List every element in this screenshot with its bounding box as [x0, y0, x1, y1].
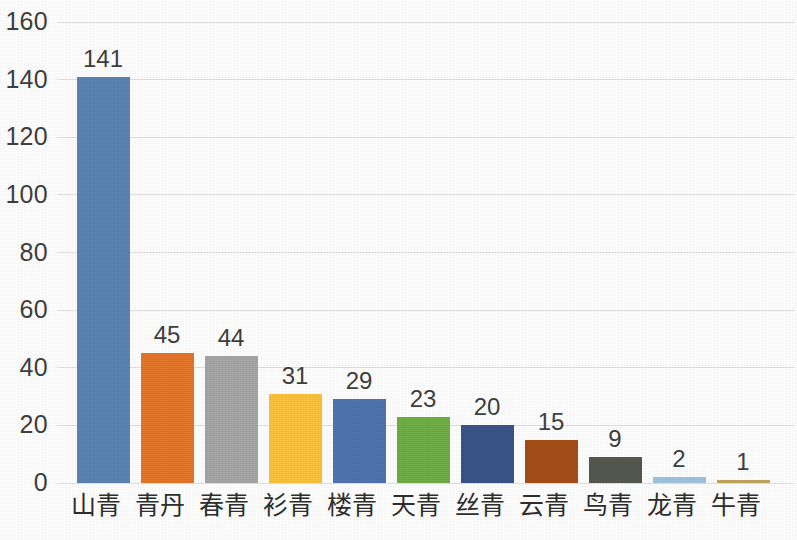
bar[interactable]: 44 — [205, 22, 258, 483]
x-axis-label-char: 衫 — [261, 492, 286, 518]
bar-value-label: 31 — [282, 364, 309, 388]
x-axis-label: 青春 — [215, 492, 247, 518]
bar-value-label: 9 — [608, 427, 621, 451]
bar[interactable]: 9 — [589, 22, 642, 483]
bar[interactable]: 2 — [653, 22, 706, 483]
gridline-0 — [57, 483, 795, 484]
x-axis-label-char: 青 — [133, 492, 158, 518]
y-axis-tick-0: 0 — [0, 470, 48, 495]
x-axis-label-char: 青 — [286, 492, 311, 518]
bar[interactable]: 15 — [525, 22, 578, 483]
bar-rect[interactable] — [589, 457, 642, 483]
y-axis-tick-20: 20 — [0, 412, 48, 437]
x-axis-label-char: 丹 — [158, 492, 183, 518]
x-axis-label: 青山 — [87, 492, 119, 518]
x-axis-label-char: 青 — [670, 492, 695, 518]
bar-rect[interactable] — [141, 353, 194, 483]
x-axis-label-char: 云 — [517, 492, 542, 518]
x-axis-label: 青云 — [535, 492, 567, 518]
bar-rect[interactable] — [525, 440, 578, 483]
bar-value-label: 44 — [218, 326, 245, 350]
y-axis-tick-40: 40 — [0, 355, 48, 380]
bar-value-label: 141 — [83, 47, 123, 71]
bar[interactable]: 23 — [397, 22, 450, 483]
bar-value-label: 15 — [538, 410, 565, 434]
bar[interactable]: 29 — [333, 22, 386, 483]
bar[interactable]: 1 — [717, 22, 770, 483]
bar-rect[interactable] — [717, 480, 770, 483]
x-axis-label: 青丝 — [471, 492, 503, 518]
bar-rect[interactable] — [269, 394, 322, 483]
bar-rect[interactable] — [333, 399, 386, 483]
x-axis-label-char: 龙 — [645, 492, 670, 518]
bar-rect[interactable] — [397, 417, 450, 483]
plot-area: 14145443129232015921 — [57, 22, 795, 483]
bar-value-label: 2 — [672, 447, 685, 471]
x-axis-label: 丹青 — [151, 492, 183, 518]
bar-value-label: 20 — [474, 395, 501, 419]
x-axis-label-char: 牛 — [709, 492, 734, 518]
bar-value-label: 23 — [410, 387, 437, 411]
y-axis-tick-140: 140 — [0, 67, 48, 92]
x-axis-label-char: 青 — [478, 492, 503, 518]
x-axis-label-char: 山 — [69, 492, 94, 518]
y-axis-tick-120: 120 — [0, 124, 48, 149]
x-axis-label-char: 天 — [389, 492, 414, 518]
bar-chart: 020406080100120140160 141454431292320159… — [0, 0, 797, 540]
bar-value-label: 1 — [736, 450, 749, 474]
y-axis-tick-160: 160 — [0, 9, 48, 34]
bar[interactable]: 31 — [269, 22, 322, 483]
bar-rect[interactable] — [77, 77, 130, 483]
x-axis-label-char: 春 — [197, 492, 222, 518]
x-axis-label: 青天 — [407, 492, 439, 518]
x-axis-label-char: 青 — [350, 492, 375, 518]
y-axis-tick-80: 80 — [0, 240, 48, 265]
bar[interactable]: 141 — [77, 22, 130, 483]
y-axis-tick-60: 60 — [0, 297, 48, 322]
x-axis-label-char: 丝 — [453, 492, 478, 518]
x-axis-label-char: 青 — [606, 492, 631, 518]
bar-rect[interactable] — [205, 356, 258, 483]
bar[interactable]: 45 — [141, 22, 194, 483]
x-axis-label-char: 鸟 — [581, 492, 606, 518]
x-axis-label: 青龙 — [663, 492, 695, 518]
x-axis-label-char: 楼 — [325, 492, 350, 518]
x-axis-label: 青衫 — [279, 492, 311, 518]
x-axis-label-char: 青 — [222, 492, 247, 518]
x-axis-label: 青楼 — [343, 492, 375, 518]
x-axis-label: 青牛 — [727, 492, 759, 518]
x-axis-label: 青鸟 — [599, 492, 631, 518]
bar-value-label: 45 — [154, 323, 181, 347]
x-axis-label-char: 青 — [734, 492, 759, 518]
x-axis-label-char: 青 — [94, 492, 119, 518]
x-axis-label-char: 青 — [414, 492, 439, 518]
bar-rect[interactable] — [461, 425, 514, 483]
bar[interactable]: 20 — [461, 22, 514, 483]
bar-value-label: 29 — [346, 369, 373, 393]
x-axis-label-char: 青 — [542, 492, 567, 518]
bar-rect[interactable] — [653, 477, 706, 483]
y-axis-tick-100: 100 — [0, 182, 48, 207]
